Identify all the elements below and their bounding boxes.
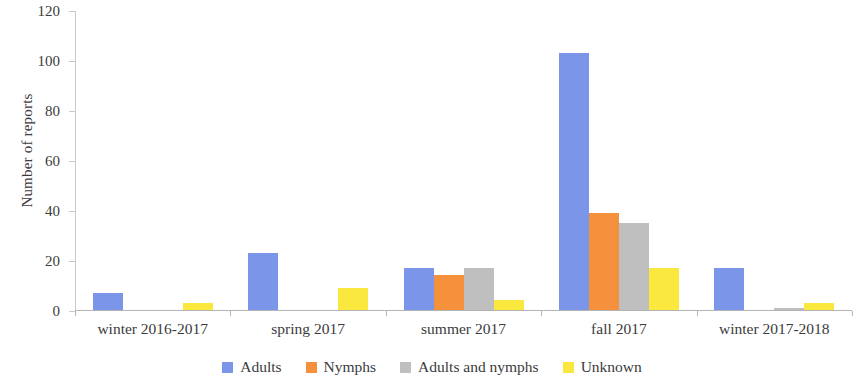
legend-item[interactable]: Nymphs — [306, 358, 377, 376]
chart-legend: AdultsNymphsAdults and nymphsUnknown — [0, 358, 864, 376]
legend-label: Unknown — [581, 358, 642, 376]
y-axis-tick-label: 80 — [0, 104, 60, 119]
legend-label: Adults and nymphs — [418, 358, 539, 376]
y-axis-tick: 20 — [69, 261, 75, 262]
y-axis-tick: 40 — [69, 211, 75, 212]
legend-item[interactable]: Adults — [222, 358, 281, 376]
bar — [804, 303, 834, 311]
bar — [714, 268, 744, 311]
bar — [338, 288, 368, 311]
bar — [494, 300, 524, 310]
x-axis-tick — [541, 311, 542, 316]
legend-swatch-icon — [400, 362, 411, 373]
x-axis-labels: winter 2016-2017spring 2017summer 2017fa… — [75, 320, 852, 344]
y-axis-tick: 60 — [69, 161, 75, 162]
y-axis-tick-label: 60 — [0, 154, 60, 169]
bar — [774, 308, 804, 311]
bar — [183, 303, 213, 311]
legend-swatch-icon — [563, 362, 574, 373]
y-axis-tick-label: 100 — [0, 54, 60, 69]
legend-item[interactable]: Adults and nymphs — [400, 358, 539, 376]
legend-label: Nymphs — [324, 358, 377, 376]
x-axis-tick — [697, 311, 698, 316]
x-axis-label: spring 2017 — [230, 320, 385, 338]
x-axis-line — [75, 310, 852, 311]
bar — [434, 275, 464, 310]
bar — [559, 53, 589, 311]
legend-item[interactable]: Unknown — [563, 358, 642, 376]
bar — [589, 213, 619, 311]
y-axis-tick-label: 20 — [0, 254, 60, 269]
plot-area: 020406080100120 — [75, 11, 852, 311]
bar-chart: Number of reports 020406080100120 winter… — [0, 0, 864, 384]
legend-label: Adults — [240, 358, 281, 376]
x-axis-label: winter 2017-2018 — [697, 320, 852, 338]
x-axis-label: fall 2017 — [541, 320, 696, 338]
y-axis-tick: 120 — [69, 11, 75, 12]
bar — [93, 293, 123, 311]
y-axis-line — [75, 11, 76, 311]
x-axis-tick — [230, 311, 231, 316]
bar — [619, 223, 649, 311]
bar — [404, 268, 434, 311]
y-axis-tick-label: 120 — [0, 4, 60, 19]
x-axis-tick — [852, 311, 853, 316]
y-axis-tick-label: 40 — [0, 204, 60, 219]
x-axis-label: winter 2016-2017 — [75, 320, 230, 338]
bar — [464, 268, 494, 311]
legend-swatch-icon — [222, 362, 233, 373]
x-axis-label: summer 2017 — [386, 320, 541, 338]
x-axis-tick — [386, 311, 387, 316]
y-axis-tick: 100 — [69, 61, 75, 62]
x-axis-tick — [75, 311, 76, 316]
y-axis-tick-label: 0 — [0, 304, 60, 319]
legend-swatch-icon — [306, 362, 317, 373]
bar — [248, 253, 278, 311]
y-axis-tick: 80 — [69, 111, 75, 112]
bar — [649, 268, 679, 311]
